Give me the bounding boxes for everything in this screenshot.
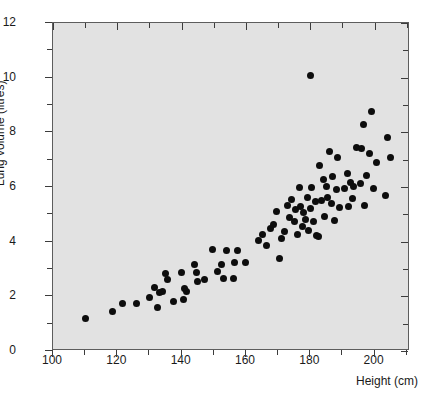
y-axis-tick <box>45 295 52 296</box>
x-axis-tick <box>116 350 117 357</box>
data-point <box>281 228 288 235</box>
x-axis-tick <box>374 350 375 357</box>
data-points-layer <box>53 23 408 349</box>
data-point <box>255 237 262 244</box>
caption-strip <box>44 396 384 403</box>
data-point <box>360 121 367 128</box>
data-point <box>363 172 370 179</box>
x-axis-tick <box>84 350 85 355</box>
y-axis-tick-label: 12 <box>0 16 16 28</box>
y-axis-tick-label: 10 <box>0 71 16 83</box>
data-point <box>191 261 198 268</box>
data-point <box>154 304 161 311</box>
data-point <box>328 200 335 207</box>
data-point <box>384 134 391 141</box>
data-point <box>321 213 328 220</box>
data-point <box>119 300 126 307</box>
data-point <box>307 205 314 212</box>
data-point <box>276 255 283 262</box>
y-axis-tick-label: 4 <box>0 235 16 247</box>
data-point <box>349 195 356 202</box>
y-axis-tick <box>47 159 52 160</box>
data-point <box>164 276 171 283</box>
data-point <box>345 203 352 210</box>
x-axis-tick <box>213 350 214 355</box>
scatter-plot-figure: Lung volume (litres) 024681012 100120140… <box>0 0 429 404</box>
x-axis-tick <box>309 350 310 357</box>
data-point <box>326 148 333 155</box>
x-axis-tick <box>406 350 407 355</box>
data-point <box>178 269 185 276</box>
data-point <box>109 308 116 315</box>
data-point <box>320 176 327 183</box>
data-point <box>230 275 237 282</box>
data-point <box>291 218 298 225</box>
y-axis-tick-label: 6 <box>0 180 16 192</box>
data-point <box>323 183 330 190</box>
data-point <box>209 246 216 253</box>
y-axis-tick <box>45 131 52 132</box>
y-axis-tick <box>45 22 52 23</box>
y-axis-tick-label: 0 <box>0 344 16 356</box>
data-point <box>180 296 187 303</box>
x-axis-tick <box>181 350 182 357</box>
data-point <box>223 247 230 254</box>
data-point <box>284 202 291 209</box>
data-point <box>315 233 322 240</box>
data-point <box>358 145 365 152</box>
data-point <box>133 300 140 307</box>
data-point <box>344 170 351 177</box>
y-axis-tick-label: 8 <box>0 125 16 137</box>
x-axis-tick <box>277 350 278 355</box>
data-point <box>82 315 89 322</box>
data-point <box>242 259 249 266</box>
x-axis-title: Height (cm) <box>0 375 418 388</box>
data-point <box>334 154 341 161</box>
y-axis-tick <box>45 186 52 187</box>
data-point <box>214 268 221 275</box>
data-point <box>288 196 295 203</box>
data-point <box>329 173 336 180</box>
x-axis-tick <box>148 350 149 355</box>
data-point <box>218 261 225 268</box>
x-axis-tick <box>245 350 246 357</box>
data-point <box>307 72 314 79</box>
data-point <box>316 162 323 169</box>
data-point <box>310 218 317 225</box>
data-point <box>387 154 394 161</box>
y-axis-tick <box>47 213 52 214</box>
data-point <box>201 276 208 283</box>
data-point <box>270 221 277 228</box>
data-point <box>305 227 312 234</box>
y-axis-tick <box>45 77 52 78</box>
data-point <box>273 208 280 215</box>
y-axis-tick <box>45 241 52 242</box>
data-point <box>341 185 348 192</box>
y-axis-tick <box>47 323 52 324</box>
y-axis-tick-right <box>401 351 408 352</box>
data-point <box>308 184 315 191</box>
data-point <box>220 275 227 282</box>
data-point <box>146 294 153 301</box>
x-axis-tick <box>52 350 53 357</box>
data-point <box>170 298 177 305</box>
data-point <box>368 108 375 115</box>
y-axis-tick <box>47 104 52 105</box>
y-axis-tick-label: 2 <box>0 289 16 301</box>
data-point <box>159 288 166 295</box>
plot-area <box>52 22 409 350</box>
x-axis-tick <box>341 350 342 355</box>
data-point <box>366 150 373 157</box>
data-point <box>193 269 200 276</box>
data-point <box>278 235 285 242</box>
data-point <box>331 217 338 224</box>
data-point <box>333 186 340 193</box>
data-point <box>357 180 364 187</box>
data-point <box>259 231 266 238</box>
data-point <box>361 202 368 209</box>
data-point <box>370 185 377 192</box>
data-point <box>231 259 238 266</box>
data-point <box>263 242 270 249</box>
y-axis-tick <box>47 268 52 269</box>
data-point <box>336 204 343 211</box>
